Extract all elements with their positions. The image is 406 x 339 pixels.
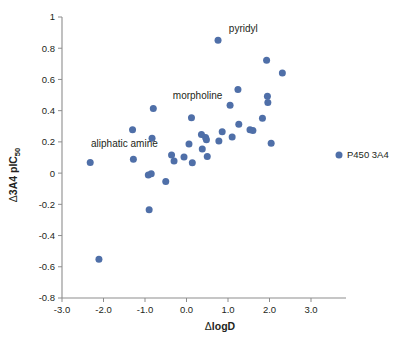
x-title-delta: Δ bbox=[205, 320, 212, 332]
y-tick-label: -0.2 bbox=[39, 199, 55, 210]
data-point bbox=[171, 157, 178, 164]
data-points bbox=[87, 37, 286, 263]
data-point bbox=[150, 105, 157, 112]
x-tick-label: 3.0 bbox=[304, 304, 317, 315]
y-title-main: 3A4 pIC bbox=[7, 156, 19, 196]
annotation-label: pyridyl bbox=[229, 23, 258, 34]
data-point bbox=[249, 127, 256, 134]
y-title-subscript: 50 bbox=[13, 148, 22, 156]
data-point bbox=[229, 133, 236, 140]
scatter-plot-figure: 10.80.60.40.20-0.2-0.4-0.6-0.8 -3.0-2.0-… bbox=[0, 0, 406, 339]
data-point bbox=[189, 159, 196, 166]
data-point bbox=[203, 136, 210, 143]
x-title-main: logD bbox=[212, 320, 236, 332]
y-tick-label: 1 bbox=[50, 11, 55, 22]
data-point bbox=[181, 153, 188, 160]
svg-text:Δ3A4 pIC50: Δ3A4 pIC50 bbox=[7, 148, 22, 202]
y-tick-label: 0.2 bbox=[42, 136, 55, 147]
data-point bbox=[264, 99, 271, 106]
data-point bbox=[162, 178, 169, 185]
data-point bbox=[188, 114, 195, 121]
data-point bbox=[215, 37, 222, 44]
legend-marker bbox=[336, 152, 343, 159]
data-point bbox=[95, 256, 102, 263]
data-point bbox=[227, 102, 234, 109]
data-point bbox=[146, 206, 153, 213]
legend-label: P450 3A4 bbox=[347, 149, 389, 160]
data-point bbox=[219, 128, 226, 135]
x-tick-label: 1.0 bbox=[221, 304, 234, 315]
data-point bbox=[259, 115, 266, 122]
data-point bbox=[199, 145, 206, 152]
svg-text:ΔlogD: ΔlogD bbox=[205, 320, 236, 332]
data-point bbox=[279, 70, 286, 77]
x-axis-title: ΔlogD bbox=[205, 320, 236, 332]
data-point bbox=[263, 57, 270, 64]
y-tick-label: -0.6 bbox=[39, 261, 55, 272]
x-tick-label: -3.0 bbox=[54, 304, 70, 315]
data-point bbox=[215, 138, 222, 145]
y-axis-title: Δ3A4 pIC50 bbox=[7, 148, 22, 202]
x-tick-label: 0.0 bbox=[180, 304, 193, 315]
data-point bbox=[130, 156, 137, 163]
y-tick-label: -0.4 bbox=[39, 230, 55, 241]
annotation-label: aliphatic amine bbox=[91, 138, 158, 149]
annotation-label: morpholine bbox=[173, 90, 223, 101]
data-point bbox=[264, 93, 271, 100]
legend: P450 3A4 bbox=[336, 149, 389, 160]
data-point bbox=[129, 126, 136, 133]
y-tick-label: 0 bbox=[50, 168, 55, 179]
y-tick-label: 0.4 bbox=[42, 105, 55, 116]
data-point bbox=[185, 141, 192, 148]
y-title-delta: Δ bbox=[7, 195, 19, 202]
data-point bbox=[268, 140, 275, 147]
data-point bbox=[87, 159, 94, 166]
data-point bbox=[148, 170, 155, 177]
y-tick-label: 0.8 bbox=[42, 43, 55, 54]
y-tick-label: -0.8 bbox=[39, 292, 55, 303]
y-axis-ticks: 10.80.60.40.20-0.2-0.4-0.6-0.8 bbox=[39, 11, 62, 303]
x-axis-ticks: -3.0-2.0-1.00.01.02.03.0 bbox=[54, 298, 318, 315]
plot-canvas: 10.80.60.40.20-0.2-0.4-0.6-0.8 -3.0-2.0-… bbox=[0, 0, 406, 339]
y-tick-label: 0.6 bbox=[42, 74, 55, 85]
x-tick-label: -2.0 bbox=[95, 304, 111, 315]
x-tick-label: 2.0 bbox=[263, 304, 276, 315]
data-point bbox=[204, 153, 211, 160]
data-point bbox=[235, 121, 242, 128]
annotations: pyridylmorpholinealiphatic amine bbox=[91, 23, 258, 150]
x-tick-label: -1.0 bbox=[137, 304, 153, 315]
data-point bbox=[234, 86, 241, 93]
